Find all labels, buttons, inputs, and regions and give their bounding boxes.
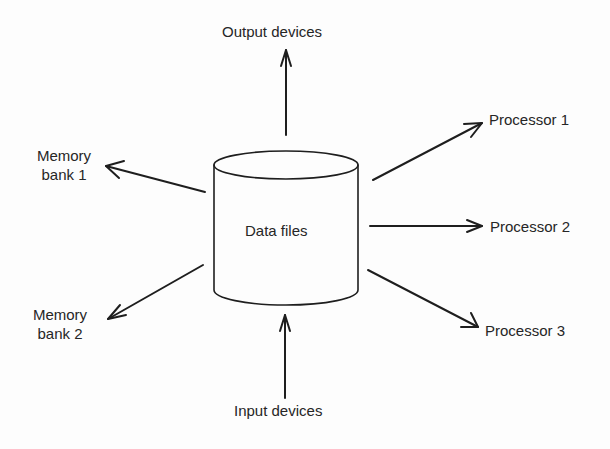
arrow-to-memory-bank-2: [108, 265, 203, 319]
arrow-to-output: [281, 50, 291, 135]
processor-3-label: Processor 3: [485, 321, 565, 340]
arrow-to-processor-2: [370, 220, 482, 232]
arrow-to-processor-3: [368, 270, 478, 327]
arrow-from-input: [280, 315, 290, 398]
data-files-label: Data files: [245, 221, 308, 240]
memory-bank-1-line1: Memory: [30, 146, 98, 165]
memory-bank-2-label: Memory bank 2: [26, 305, 94, 343]
input-devices-label: Input devices: [234, 401, 322, 420]
memory-bank-2-line2: bank 2: [26, 324, 94, 343]
processor-2-label: Processor 2: [490, 217, 570, 236]
output-devices-label: Output devices: [222, 22, 322, 41]
memory-bank-2-line1: Memory: [26, 305, 94, 324]
arrow-to-memory-bank-1: [106, 161, 205, 192]
memory-bank-1-label: Memory bank 1: [30, 146, 98, 184]
memory-bank-1-line2: bank 1: [30, 165, 98, 184]
processor-1-label: Processor 1: [489, 110, 569, 129]
arrow-to-processor-1: [373, 123, 482, 180]
diagram-canvas: Output devices Input devices Data files …: [0, 0, 610, 449]
